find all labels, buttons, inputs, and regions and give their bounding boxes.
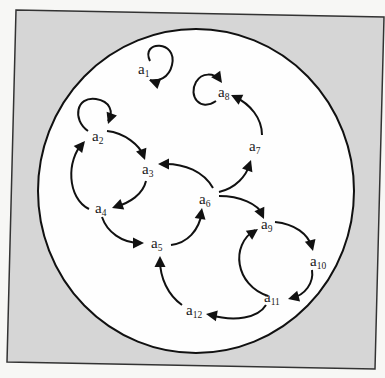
universe-circle bbox=[38, 29, 354, 353]
graph-diagram: a1a2a3a4a5a6a7a8a9a10a11a12 bbox=[0, 0, 385, 378]
